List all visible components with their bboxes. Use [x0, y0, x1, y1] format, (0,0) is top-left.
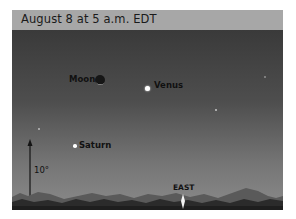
east-label: EAST: [173, 183, 194, 192]
star-icon: [264, 76, 266, 78]
moon-label: Moon: [69, 74, 95, 84]
venus-label: Venus: [154, 80, 183, 90]
chart-title: August 8 at 5 a.m. EDT: [21, 12, 157, 26]
night-sky: [12, 30, 283, 210]
star-icon: [38, 128, 40, 130]
star-icon: [215, 109, 217, 111]
saturn-label: Saturn: [79, 140, 111, 150]
sky-chart-panel: August 8 at 5 a.m. EDT Moon Venus Saturn…: [12, 10, 283, 210]
venus-icon: [145, 86, 150, 91]
saturn-icon: [73, 144, 77, 148]
scale-label: 10°: [34, 165, 49, 175]
header-bar: August 8 at 5 a.m. EDT: [12, 10, 283, 30]
